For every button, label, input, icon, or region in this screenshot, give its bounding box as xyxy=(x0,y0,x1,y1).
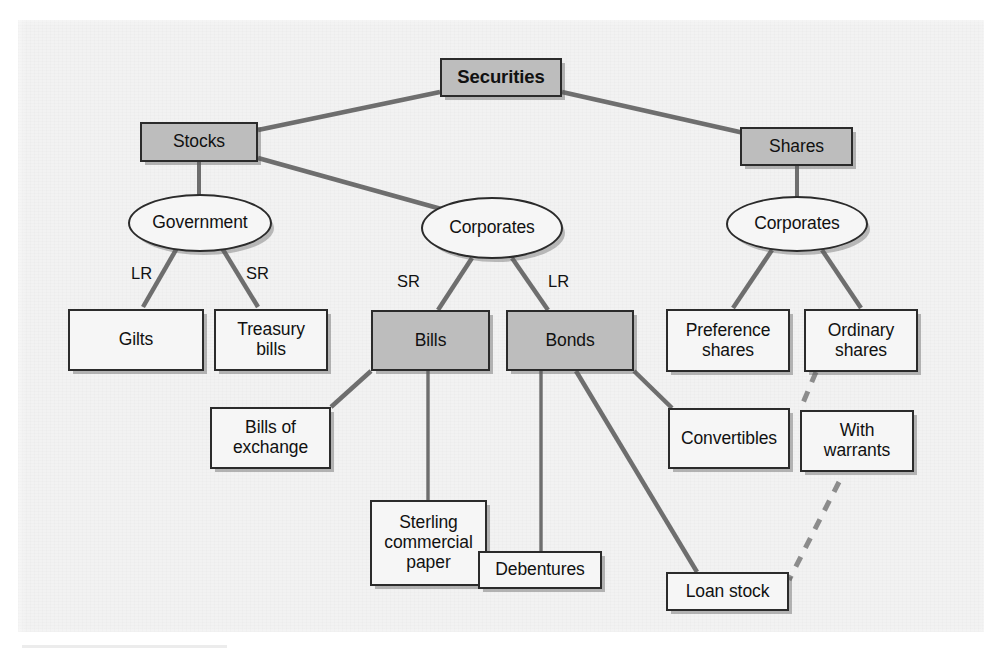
edge-bonds-loanstock xyxy=(576,371,697,572)
node-government[interactable]: Government xyxy=(128,194,272,252)
node-gilts-label: Gilts xyxy=(119,330,154,350)
node-bills-of-exchange-label: Bills of exchange xyxy=(233,418,308,458)
node-sterling-line2: commercial xyxy=(384,532,472,552)
node-bonds-label: Bonds xyxy=(545,331,594,351)
edge-withwarrants-loanstock-dashed xyxy=(789,482,839,580)
edge-label-corporates-lr: LR xyxy=(548,273,569,290)
node-loan-stock-label: Loan stock xyxy=(686,582,770,602)
node-preference-shares-line2: shares xyxy=(702,340,754,360)
securities-diagram: Securities Stocks Shares Government Corp… xyxy=(0,0,1001,657)
node-bills-of-exchange-line2: exchange xyxy=(233,437,308,457)
edge-stocks-corporates xyxy=(258,158,452,212)
edge-securities-stocks xyxy=(258,92,440,130)
node-bills-label: Bills xyxy=(415,331,447,351)
edge-ordinary-withwarrants-dashed xyxy=(800,372,816,410)
edge-corporates-ordinary xyxy=(822,250,861,308)
node-gilts[interactable]: Gilts xyxy=(68,309,204,371)
edge-corporates-bills xyxy=(438,258,472,310)
edge-label-government-sr: SR xyxy=(246,265,269,282)
node-corporates-stocks[interactable]: Corporates xyxy=(421,197,563,259)
edge-bills-billsofexchange xyxy=(331,371,371,407)
node-treasury-bills-label: Treasury bills xyxy=(237,320,305,360)
edge-label-corporates-sr: SR xyxy=(397,273,420,290)
edge-label-government-lr: LR xyxy=(131,265,152,282)
node-sterling-line3: paper xyxy=(406,552,450,572)
node-preference-shares[interactable]: Preference shares xyxy=(666,309,790,372)
node-sterling-commercial-paper[interactable]: Sterling commercial paper xyxy=(370,500,487,586)
footer-rule xyxy=(22,645,227,648)
node-convertibles[interactable]: Convertibles xyxy=(668,408,790,469)
node-convertibles-label: Convertibles xyxy=(681,429,777,449)
node-ordinary-shares-label: Ordinary shares xyxy=(828,321,894,361)
node-with-warrants-label: With warrants xyxy=(824,421,890,461)
edge-bonds-convertibles xyxy=(634,371,672,408)
node-ordinary-shares[interactable]: Ordinary shares xyxy=(804,309,918,372)
node-with-warrants-line1: With xyxy=(840,420,875,440)
node-corporates-stocks-label: Corporates xyxy=(449,218,535,238)
node-shares[interactable]: Shares xyxy=(740,127,853,166)
node-corporates-shares-label: Corporates xyxy=(754,214,840,234)
node-securities[interactable]: Securities xyxy=(440,58,562,97)
edge-securities-shares xyxy=(562,92,744,133)
node-government-label: Government xyxy=(152,213,247,233)
node-with-warrants-line2: warrants xyxy=(824,440,890,460)
node-bills-of-exchange-line1: Bills of xyxy=(245,417,296,437)
node-treasury-bills[interactable]: Treasury bills xyxy=(214,309,328,371)
node-preference-shares-label: Preference shares xyxy=(686,321,771,361)
node-treasury-bills-line2: bills xyxy=(256,339,286,359)
node-bonds[interactable]: Bonds xyxy=(506,310,634,371)
node-bills-of-exchange[interactable]: Bills of exchange xyxy=(210,407,331,469)
node-stocks[interactable]: Stocks xyxy=(140,122,258,162)
node-debentures[interactable]: Debentures xyxy=(478,551,602,589)
node-sterling-line1: Sterling xyxy=(399,512,458,532)
node-securities-label: Securities xyxy=(457,67,544,88)
node-preference-shares-line1: Preference xyxy=(686,320,771,340)
node-bills[interactable]: Bills xyxy=(371,310,490,371)
node-debentures-label: Debentures xyxy=(495,560,584,580)
node-corporates-shares[interactable]: Corporates xyxy=(726,196,868,252)
node-ordinary-shares-line2: shares xyxy=(835,340,887,360)
node-loan-stock[interactable]: Loan stock xyxy=(666,572,789,611)
node-stocks-label: Stocks xyxy=(173,132,225,152)
edge-corporates-bonds xyxy=(512,258,548,310)
node-ordinary-shares-line1: Ordinary xyxy=(828,320,894,340)
node-treasury-bills-line1: Treasury xyxy=(237,319,305,339)
node-sterling-commercial-paper-label: Sterling commercial paper xyxy=(384,513,472,572)
node-with-warrants[interactable]: With warrants xyxy=(800,410,914,472)
edge-corporates-preference xyxy=(733,250,772,308)
node-shares-label: Shares xyxy=(769,137,824,157)
